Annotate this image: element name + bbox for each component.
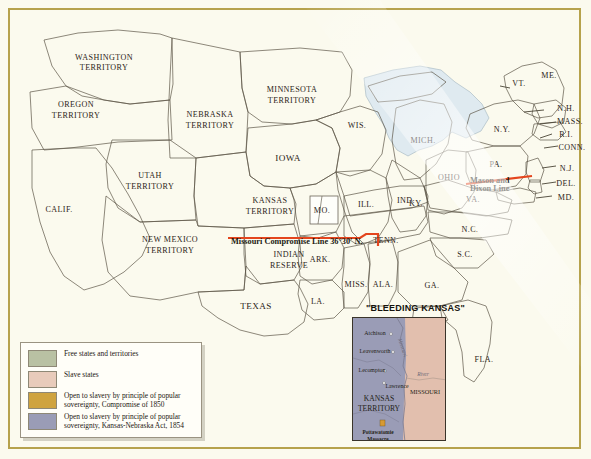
bleeding-kansas-title: "BLEEDING KANSAS": [366, 303, 465, 313]
legend-swatch-1854: [28, 413, 57, 430]
label-nebraska-2: TERRITORY: [186, 121, 234, 130]
inset-missouri: MISSOURI: [410, 388, 440, 395]
legend-text-1850: Open to slavery by principle of popular …: [64, 391, 194, 409]
label-nh: N.H.: [557, 104, 574, 113]
label-md: MD.: [558, 193, 574, 202]
legend-swatch-slave: [28, 371, 57, 388]
label-indian: INDIAN: [273, 250, 304, 259]
label-ri: R.I.: [559, 130, 573, 139]
label-ohio: OHIO: [438, 173, 460, 182]
label-nc: N.C.: [462, 225, 479, 234]
city-atchison: Atchison: [364, 330, 385, 336]
legend-swatch-1850: [28, 392, 57, 409]
label-me: ME.: [541, 71, 556, 80]
legend-text-1854: Open to slavery by principle of popular …: [64, 412, 194, 430]
label-new-mexico: NEW MEXICO: [142, 235, 198, 244]
city-leavenworth: Leavenworth: [359, 348, 390, 354]
label-pa: PA.: [490, 160, 503, 169]
label-utah-2: TERRITORY: [126, 182, 174, 191]
label-kansas: KANSAS: [253, 196, 288, 205]
pottawatomie-label-1: Pottawatomie: [362, 429, 394, 435]
label-kansas-2: TERRITORY: [246, 207, 294, 216]
label-new-mexico-2: TERRITORY: [146, 246, 194, 255]
inset-kansas-territory-1: KANSAS: [364, 394, 394, 403]
bleeding-kansas-inset[interactable]: Missouri River Atchison Leavenworth Leco…: [352, 317, 446, 441]
legend-text-slave: Slave states: [64, 370, 99, 380]
label-indian-2: RESERVE: [270, 261, 308, 270]
label-washington: WASHINGTON: [75, 53, 133, 62]
city-lecompton: Lecompton: [359, 367, 386, 373]
label-nebraska: NEBRASKA: [187, 110, 234, 119]
label-minnesota: MINNESOTA: [267, 85, 318, 94]
missouri-compromise-label: Missouri Compromise Line 36°30' N.: [231, 237, 363, 246]
inset-kansas-territory-2: TERRITORY: [358, 404, 401, 413]
label-va: VA.: [466, 195, 480, 204]
label-ala: ALA.: [373, 280, 393, 289]
river-label: River: [416, 371, 430, 377]
region-labels: WASHINGTON TERRITORY OREGON TERRITORY UT…: [45, 53, 585, 364]
label-tenn: TENN.: [373, 236, 399, 245]
label-miss: MISS.: [345, 280, 368, 289]
label-washington-2: TERRITORY: [80, 63, 128, 72]
label-mass: MASS.: [557, 117, 583, 126]
pottawatomie-label-2: Massacre: [367, 436, 389, 441]
label-ark: ARK.: [310, 255, 331, 264]
legend-item-1850: Open to slavery by principle of popular …: [28, 391, 194, 409]
label-mo: MO.: [314, 206, 330, 215]
mason-dixon-label-2: Dixon Line: [470, 184, 510, 193]
label-texas: TEXAS: [240, 301, 272, 311]
label-ga: GA.: [425, 281, 440, 290]
label-la: LA.: [311, 297, 325, 306]
label-del: DEL.: [556, 179, 575, 188]
legend-item-slave: Slave states: [28, 370, 194, 388]
label-oregon: OREGON: [58, 100, 94, 109]
label-utah: UTAH: [138, 171, 161, 180]
label-conn: CONN.: [559, 143, 586, 152]
label-fla: FLA.: [475, 355, 494, 364]
label-ill: ILL.: [358, 200, 374, 209]
label-mich: MICH.: [410, 136, 435, 145]
label-iowa: IOWA: [275, 153, 301, 163]
city-lawrence: Lawrence: [385, 383, 409, 389]
label-vt: VT.: [512, 79, 525, 88]
label-wis: WIS.: [348, 121, 366, 130]
label-sc: S.C.: [457, 250, 473, 259]
legend-swatch-free: [28, 350, 57, 367]
map-stage: WASHINGTON TERRITORY OREGON TERRITORY UT…: [0, 0, 591, 459]
legend-item-1854: Open to slavery by principle of popular …: [28, 412, 194, 430]
legend-item-free: Free states and territories: [28, 349, 194, 367]
label-ky: KY.: [409, 199, 423, 208]
legend-text-free: Free states and territories: [64, 349, 139, 359]
map-legend: Free states and territories Slave states…: [20, 342, 202, 438]
inset-map-svg: Missouri River Atchison Leavenworth Leco…: [353, 318, 446, 441]
label-minnesota-2: TERRITORY: [268, 96, 316, 105]
label-ny: N.Y.: [494, 125, 510, 134]
label-calif: CALIF.: [45, 205, 72, 214]
label-nj: N.J.: [560, 164, 575, 173]
label-oregon-2: TERRITORY: [52, 111, 100, 120]
compromise-1850-regions: [102, 140, 302, 300]
